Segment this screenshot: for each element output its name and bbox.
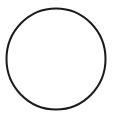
figure-canvas xyxy=(0,0,117,121)
circle-figure-svg xyxy=(0,0,117,121)
circle-outline-icon xyxy=(7,9,106,110)
